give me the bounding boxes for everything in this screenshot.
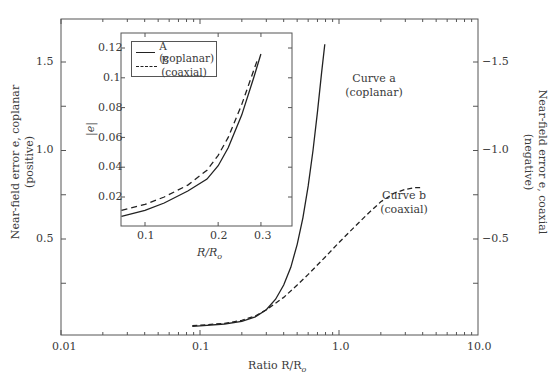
y-right-tick-label: −1.5 [482,55,509,68]
y-right-axis-label: Near-field error e, coaxial (negative) [521,77,549,247]
inset-x-tick-label: 0.3 [254,229,272,242]
legend-label-b: B (coaxial) [161,54,216,78]
inset-x-tick-label: 0.2 [210,229,228,242]
y-left-axis-label-line2: (positive) [23,77,37,247]
inset-x-axis-label-text: R/R [197,246,217,259]
inset-y-tick-label: 0.04 [98,160,123,173]
y-right-tick-label: −1.0 [482,143,509,156]
inset-y-axis-label: |e| [84,114,98,144]
y-left-axis-label-line1: Near-field error e, coplanar [9,77,23,247]
inset-legend: A (coplanar) B (coaxial) [131,41,217,77]
x-tick-label: 1.0 [332,340,350,353]
inset-y-tick-label: 0.12 [98,41,123,54]
inset-y-tick-label: 0.08 [98,101,123,114]
y-left-tick-label: 1.0 [36,143,54,156]
curve-b-annotation: Curve b (coaxial) [364,189,444,217]
legend-solid-line-icon [136,52,155,53]
inset-x-axis-label-sub: o [217,252,222,261]
y-left-tick-label: 0.5 [36,232,54,245]
inset-y-tick-label: 0.02 [98,190,123,203]
x-axis-label-text: Ratio R/R [248,359,301,372]
chart-canvas [0,0,555,378]
x-tick-label: 10.0 [467,340,492,353]
y-left-axis-label: Near-field error e, coplanar (positive) [9,77,37,247]
x-axis-label: Ratio R/Ro [248,359,306,374]
legend-entry-b: B (coaxial) [136,59,216,73]
inset-y-tick-label: 0.06 [98,131,123,144]
x-tick-label: 0.1 [192,340,210,353]
curve-a-sublabel: (coplanar) [334,86,414,100]
curve-a-annotation: Curve a (coplanar) [334,72,414,100]
legend-dashed-line-icon [136,66,157,67]
curve-a-label: Curve a [334,72,414,86]
inset-x-tick-label: 0.1 [137,229,155,242]
inset-y-tick-label: 0.1 [103,71,121,84]
y-right-axis-label-line1: Near-field error e, coaxial [535,77,549,247]
x-tick-label: 0.01 [52,340,77,353]
inset-x-axis-label: R/Ro [197,246,222,261]
y-right-axis-label-line2: (negative) [521,77,535,247]
y-left-tick-label: 1.5 [36,55,54,68]
x-axis-label-sub: o [301,365,306,374]
y-right-tick-label: −0.5 [482,232,509,245]
curve-b-label: Curve b [364,189,444,203]
curve-b-sublabel: (coaxial) [364,203,444,217]
